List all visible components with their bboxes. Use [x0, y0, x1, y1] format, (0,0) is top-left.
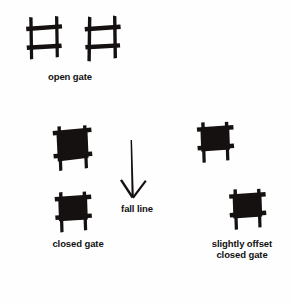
label-closed-gate: closed gate	[8, 238, 148, 249]
gate-diagram	[0, 0, 292, 306]
label-offset-closed-gate: slightly offset closed gate	[192, 238, 292, 260]
label-fall-line: fall line	[92, 203, 182, 214]
diagram-background	[0, 0, 292, 306]
label-open-gate: open gate	[0, 71, 140, 82]
